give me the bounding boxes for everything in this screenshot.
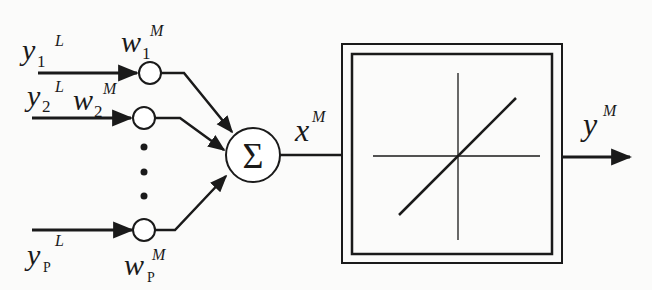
- weight-1: w 1 M: [121, 22, 165, 84]
- output-superscript: M: [602, 102, 618, 119]
- sigma-icon: Σ: [243, 136, 264, 176]
- connector-1: [161, 73, 232, 132]
- weight-1-symbol: w: [121, 25, 141, 58]
- weight-2-superscript: M: [102, 80, 118, 97]
- weight-2: w 2 M: [73, 80, 155, 129]
- input-2-superscript: L: [54, 78, 64, 95]
- input-2-symbol: y: [24, 79, 41, 112]
- linear-transfer-function-icon: [373, 73, 540, 240]
- input-1-subscript: 1: [37, 52, 46, 71]
- weight-1-superscript: M: [149, 22, 165, 39]
- activation-outer-frame: [342, 44, 562, 263]
- input-1-superscript: L: [54, 32, 64, 49]
- summation-node: Σ: [226, 128, 280, 182]
- input-p-subscript: P: [43, 260, 51, 275]
- input-1-symbol: y: [19, 33, 36, 66]
- weight-p-superscript: M: [151, 246, 167, 263]
- weight-2-symbol: w: [73, 83, 93, 116]
- activation-inner-frame: [352, 54, 552, 254]
- neuron-diagram: y 1 L w 1 M y 2 L w 2 M y P L w P: [0, 0, 652, 290]
- connector-2: [155, 118, 224, 150]
- input-2-subscript: 2: [42, 97, 51, 116]
- weight-p-subscript: P: [147, 270, 155, 285]
- connector-p: [155, 176, 226, 230]
- activation-block: [342, 44, 562, 263]
- input-p: y P L: [24, 230, 132, 275]
- weight-p-node: [133, 219, 155, 241]
- net-input-superscript: M: [311, 108, 327, 125]
- net-input-label: x M: [294, 108, 327, 148]
- weight-2-node: [133, 107, 155, 129]
- output-symbol: y: [580, 106, 598, 142]
- weight-1-node: [139, 62, 161, 84]
- weight-p-symbol: w: [124, 248, 144, 281]
- input-p-superscript: L: [54, 232, 64, 249]
- input-p-symbol: y: [24, 238, 41, 271]
- weight-2-subscript: 2: [94, 102, 103, 121]
- output-label: y M: [580, 102, 618, 142]
- weight-1-subscript: 1: [142, 44, 151, 63]
- net-input-symbol: x: [294, 112, 309, 148]
- ellipsis-dots: [141, 144, 148, 200]
- input-1: y 1 L: [19, 32, 137, 73]
